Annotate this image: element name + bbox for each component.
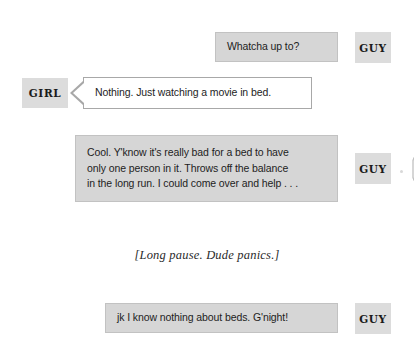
message-line: only one person in it. Throws off the ba… [87, 161, 326, 177]
bubble-tail-left-fill-icon [73, 83, 84, 103]
message-bubble-3-body: Cool. Y'know it's really bad for a bed t… [75, 135, 338, 202]
stage-direction: [Long pause. Dude panics.] [0, 248, 414, 263]
dialogue-canvas: Whatcha up to? GUY GIRL Nothing. Just wa… [0, 0, 414, 362]
speaker-chip-girl: GIRL [22, 78, 68, 108]
message-bubble-4: jk I know nothing about beds. G'night! [105, 303, 338, 333]
speaker-chip-guy-1: GUY [355, 32, 391, 63]
message-line: Whatcha up to? [227, 39, 326, 55]
speaker-chip-guy-2: GUY [355, 153, 391, 184]
message-bubble-3: Cool. Y'know it's really bad for a bed t… [75, 135, 338, 202]
page-speck [400, 170, 403, 173]
message-bubble-1: Whatcha up to? [215, 32, 338, 62]
speaker-label: GUY [359, 163, 386, 175]
message-bubble-2-body: Nothing. Just watching a movie in bed. [83, 77, 312, 109]
message-line: Nothing. Just watching a movie in bed. [95, 85, 300, 101]
message-bubble-4-body: jk I know nothing about beds. G'night! [105, 303, 338, 333]
message-line: Cool. Y'know it's really bad for a bed t… [87, 145, 326, 161]
message-bubble-1-body: Whatcha up to? [215, 32, 338, 62]
speaker-label: GUY [359, 42, 386, 54]
speaker-chip-guy-3: GUY [355, 303, 391, 334]
message-line: jk I know nothing about beds. G'night! [117, 310, 326, 326]
speaker-label: GUY [359, 313, 386, 325]
speaker-label: GIRL [29, 87, 61, 99]
message-bubble-2: Nothing. Just watching a movie in bed. [83, 77, 312, 109]
message-line: in the long run. I could come over and h… [87, 176, 326, 192]
